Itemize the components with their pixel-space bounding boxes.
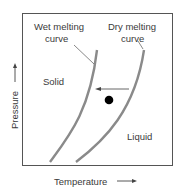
dry-melting-curve bbox=[76, 50, 144, 162]
x-axis-label: Temperature bbox=[54, 176, 107, 187]
liquid-region-label: Liquid bbox=[127, 131, 152, 142]
wet-curve-label-1: Wet melting bbox=[34, 21, 84, 32]
phase-diagram: Wet melting curve Dry melting curve Soli… bbox=[0, 0, 183, 189]
state-point bbox=[105, 96, 114, 105]
dry-curve-label-2: curve bbox=[121, 33, 144, 44]
wet-curve-label-2: curve bbox=[45, 33, 68, 44]
arrow-head-icon bbox=[95, 87, 101, 91]
solid-region-label: Solid bbox=[43, 76, 64, 87]
wet-melting-curve bbox=[50, 50, 97, 162]
y-axis-label: Pressure bbox=[9, 91, 20, 129]
wet-curve-leader-line bbox=[74, 45, 94, 64]
y-axis-arrow-head-icon bbox=[13, 63, 17, 68]
dry-curve-label-1: Dry melting bbox=[108, 21, 156, 32]
x-axis-arrow-head-icon bbox=[132, 179, 137, 183]
